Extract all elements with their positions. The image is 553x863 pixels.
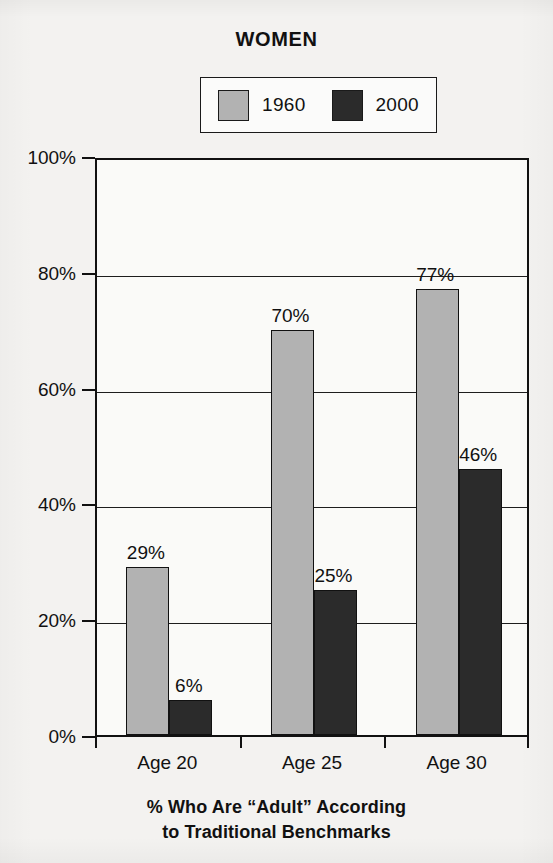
y-axis-label: 100%	[0, 147, 76, 169]
bar-value-label: 46%	[459, 444, 497, 466]
y-axis-label: 20%	[0, 610, 76, 632]
legend-entry-2000: 2000	[332, 90, 419, 121]
bar-1960-age-25	[271, 330, 314, 735]
bar-value-label: 77%	[416, 264, 454, 286]
bar-value-label: 29%	[127, 542, 165, 564]
chart-legend: 1960 2000	[200, 77, 437, 133]
y-axis-tick-mark	[82, 504, 95, 506]
bar-2000-age-30	[459, 469, 502, 735]
x-axis-tick-mark	[384, 737, 386, 748]
bar-1960-age-20	[126, 567, 169, 735]
y-axis-tick-mark	[82, 620, 95, 622]
caption-line-2: to Traditional Benchmarks	[0, 820, 553, 845]
x-axis-label-age-20: Age 20	[137, 752, 197, 774]
bar-value-label: 25%	[314, 565, 352, 587]
chart-caption: % Who Are “Adult” According to Tradition…	[0, 795, 553, 845]
legend-swatch-2000-icon	[332, 90, 363, 121]
bar-value-label: 6%	[175, 675, 202, 697]
y-axis-tick-mark	[82, 273, 95, 275]
y-axis-tick-mark	[82, 736, 95, 738]
bar-1960-age-30	[416, 289, 459, 735]
x-axis-tick-mark	[240, 737, 242, 748]
legend-swatch-1960-icon	[218, 90, 249, 121]
x-axis-tick-mark	[95, 737, 97, 748]
bar-value-label: 70%	[271, 305, 309, 327]
bar-2000-age-25	[314, 590, 357, 735]
caption-line-1: % Who Are “Adult” According	[0, 795, 553, 820]
y-axis-label: 40%	[0, 494, 76, 516]
x-axis-label-age-30: Age 30	[427, 752, 487, 774]
gridline	[97, 276, 527, 277]
chart-title: WOMEN	[0, 28, 553, 51]
y-axis-tick-mark	[82, 389, 95, 391]
legend-label-2000: 2000	[376, 94, 419, 116]
y-axis-tick-mark	[82, 157, 95, 159]
legend-label-1960: 1960	[262, 94, 305, 116]
y-axis-label: 60%	[0, 379, 76, 401]
bar-2000-age-20	[169, 700, 212, 735]
x-axis-tick-mark	[527, 737, 529, 748]
y-axis-label: 80%	[0, 263, 76, 285]
legend-entry-1960: 1960	[218, 90, 305, 121]
bar-chart-figure: WOMEN 1960 2000 0%20%40%60%80%100% 29%6%…	[0, 0, 553, 863]
y-axis-label: 0%	[0, 726, 76, 748]
x-axis-label-age-25: Age 25	[282, 752, 342, 774]
